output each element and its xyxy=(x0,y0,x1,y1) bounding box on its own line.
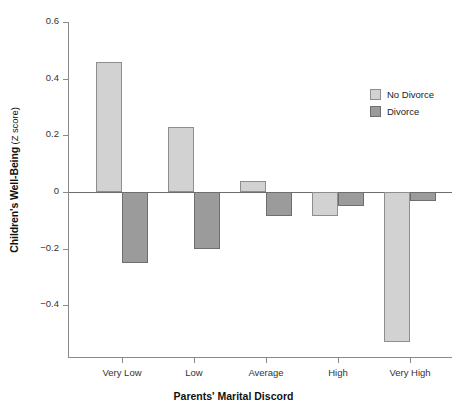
y-tick-label: 0.6 xyxy=(46,15,59,26)
y-tick-label: 0.2 xyxy=(46,128,59,139)
x-tick-label: Average xyxy=(248,367,283,378)
legend-swatch-divorce xyxy=(370,106,381,117)
x-tick xyxy=(194,357,195,363)
bar-divorce-average[interactable] xyxy=(266,192,292,216)
bar-no-divorce-low[interactable] xyxy=(168,127,194,192)
y-tick-label: 0.4 xyxy=(46,72,59,83)
bar-no-divorce-average[interactable] xyxy=(240,181,266,192)
bar-divorce-very-low[interactable] xyxy=(122,192,148,263)
chart-figure: Children's Well-Being (Z score) 0.60.40.… xyxy=(0,0,467,415)
x-tick xyxy=(410,357,411,363)
legend-label-divorce: Divorce xyxy=(387,106,419,117)
x-tick xyxy=(122,357,123,363)
y-tick xyxy=(63,249,69,250)
x-tick-label: Very High xyxy=(389,367,430,378)
x-tick-label: Low xyxy=(185,367,202,378)
plot-area: 0.60.40.20−0.2−0.4 Very LowLowAverageHig… xyxy=(68,22,452,358)
y-tick-label: −0.4 xyxy=(40,298,59,309)
y-axis-title-unit: (Z score) xyxy=(9,107,20,147)
x-axis-title: Parents' Marital Discord xyxy=(0,390,467,402)
bar-divorce-low[interactable] xyxy=(194,192,220,249)
legend-swatch-no-divorce xyxy=(370,89,381,100)
bar-no-divorce-high[interactable] xyxy=(312,192,338,216)
y-tick xyxy=(63,79,69,80)
legend-item-no-divorce[interactable]: No Divorce xyxy=(370,87,434,101)
y-tick xyxy=(63,22,69,23)
bar-no-divorce-very-low[interactable] xyxy=(96,62,122,192)
legend: No Divorce Divorce xyxy=(370,87,434,121)
bar-no-divorce-very-high[interactable] xyxy=(384,192,410,342)
y-tick-label: −0.2 xyxy=(40,242,59,253)
y-tick-label: 0 xyxy=(54,185,59,196)
legend-item-divorce[interactable]: Divorce xyxy=(370,104,434,118)
x-tick-label: High xyxy=(328,367,348,378)
y-tick xyxy=(63,135,69,136)
bar-divorce-high[interactable] xyxy=(338,192,364,206)
x-tick-label: Very Low xyxy=(102,367,141,378)
x-tick xyxy=(338,357,339,363)
y-axis-title-main: Children's Well-Being xyxy=(8,147,20,253)
y-tick xyxy=(63,192,69,193)
y-tick xyxy=(63,305,69,306)
x-tick xyxy=(266,357,267,363)
x-axis-line xyxy=(68,357,452,358)
y-axis-line xyxy=(68,22,69,358)
y-axis-title: Children's Well-Being (Z score) xyxy=(0,0,28,360)
legend-label-no-divorce: No Divorce xyxy=(387,89,434,100)
bar-divorce-very-high[interactable] xyxy=(410,192,436,201)
